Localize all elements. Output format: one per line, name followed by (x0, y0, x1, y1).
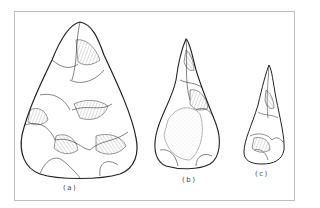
label-c: (c) (255, 170, 269, 178)
label-a: (a) (63, 184, 77, 192)
hand-axe-b (155, 39, 219, 169)
hand-axe-a (21, 22, 137, 179)
hand-axe-c (244, 65, 284, 164)
label-b: (b) (182, 176, 196, 184)
